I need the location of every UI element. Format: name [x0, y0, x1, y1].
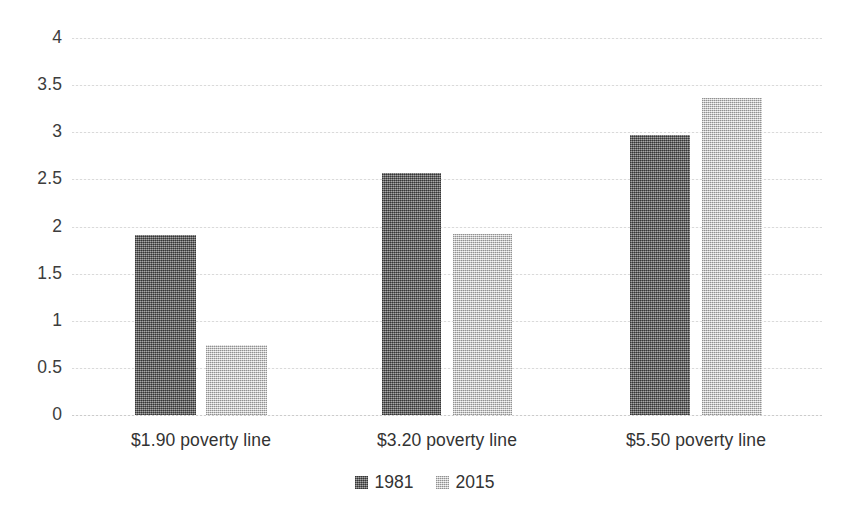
gridline [72, 415, 822, 416]
gridline [72, 38, 822, 39]
legend-item-1981[interactable]: 1981 [355, 474, 414, 492]
gridline [72, 85, 822, 86]
plot-area [72, 38, 822, 415]
bar-1981-1 [135, 235, 196, 415]
legend-swatch-icon [355, 476, 368, 489]
y-axis-tick-label: 1.5 [2, 265, 62, 283]
y-axis-tick-label: 2 [2, 218, 62, 236]
bar-2015-1 [206, 345, 267, 415]
bar-1981-3 [630, 135, 690, 415]
bar-2015-3 [702, 98, 762, 415]
bar-2015-2 [453, 234, 512, 415]
y-axis-tick-label: 1 [2, 312, 62, 330]
bar-chart: 43.532.521.510.50 $1.90 poverty line$3.2… [0, 0, 849, 520]
legend-label: 2015 [456, 474, 495, 492]
x-axis-category-label: $3.20 poverty line [377, 432, 517, 450]
legend: 19812015 [0, 474, 849, 492]
y-axis-tick-label: 4 [2, 29, 62, 47]
x-axis-category-label: $1.90 poverty line [131, 432, 271, 450]
legend-label: 1981 [375, 474, 414, 492]
legend-item-2015[interactable]: 2015 [436, 474, 495, 492]
y-axis-tick-label: 3 [2, 124, 62, 142]
bar-1981-2 [382, 173, 441, 415]
y-axis-tick-label: 0.5 [2, 359, 62, 377]
legend-swatch-icon [436, 476, 449, 489]
y-axis-tick-label: 2.5 [2, 171, 62, 189]
x-axis-category-label: $5.50 poverty line [626, 432, 766, 450]
y-axis-tick-label: 0 [2, 406, 62, 424]
y-axis-tick-label: 3.5 [2, 76, 62, 94]
